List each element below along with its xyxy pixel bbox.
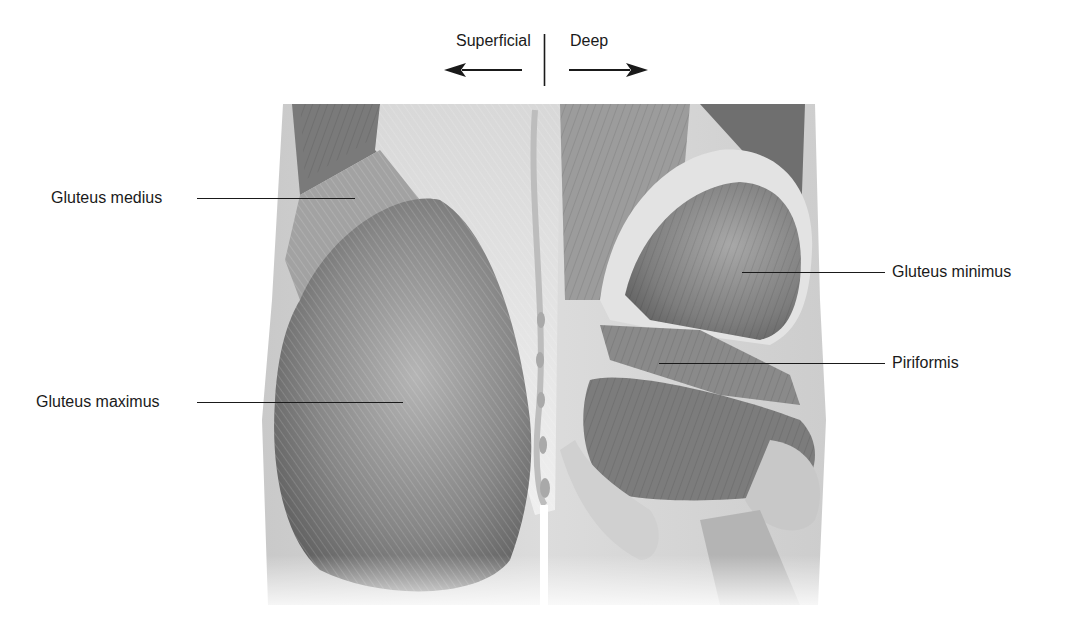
piriformis-label: Piriformis — [892, 354, 959, 372]
bottom-fade — [250, 555, 850, 634]
gluteal-illustration — [0, 0, 1078, 634]
gluteus-medius-leader-line — [197, 198, 355, 199]
gluteus-maximus-leader-line — [197, 402, 403, 403]
gluteus-minimus-leader-line — [742, 272, 885, 273]
gluteus-minimus-label: Gluteus minimus — [892, 263, 1011, 281]
piriformis-leader-line — [659, 363, 885, 364]
gluteus-medius-label: Gluteus medius — [51, 189, 162, 207]
gluteus-maximus-label: Gluteus maximus — [36, 393, 160, 411]
